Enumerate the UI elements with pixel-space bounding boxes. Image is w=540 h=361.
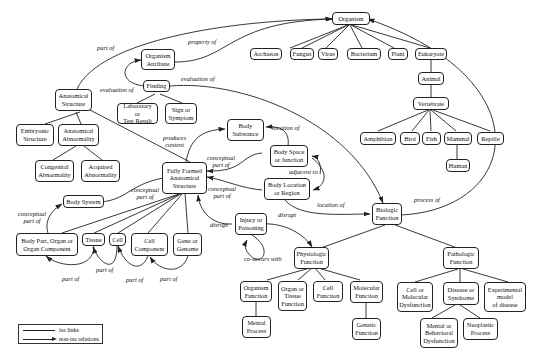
- plain-line-icon: [23, 330, 55, 331]
- node-plant[interactable]: Plant: [388, 48, 408, 60]
- arrow-line-icon: [23, 339, 55, 340]
- node-sign-symptom[interactable]: Sign or Symptom: [165, 103, 197, 124]
- edge-label-evaluation-of: evaluation of: [181, 75, 215, 82]
- node-neoplastic-process[interactable]: Neoplastic Process: [463, 318, 498, 340]
- node-mental-dysfunction[interactable]: Mental or Behavioral Dysfunction: [420, 318, 458, 348]
- edge-label-disrupt: disrupt: [210, 221, 228, 228]
- edge-label-part-of: part of: [160, 275, 177, 282]
- node-physiologic-function[interactable]: Physiologic Function: [294, 247, 329, 269]
- node-organism-function[interactable]: Organism Function: [240, 281, 272, 302]
- legend-isa-row: isa links: [23, 326, 79, 334]
- node-acquired-abnormality[interactable]: Acquired Abnormality: [81, 160, 120, 182]
- edge-label-adjacent-to: adjacent to: [289, 168, 318, 175]
- node-mental-process[interactable]: Mental Process: [242, 316, 271, 338]
- node-finding[interactable]: Finding: [143, 80, 170, 92]
- node-body-substance[interactable]: Body Substance: [227, 119, 264, 141]
- edge-label-location-of: location of: [272, 124, 300, 131]
- node-organ-tissue-function[interactable]: Organ or Tissue Function: [278, 281, 307, 311]
- node-body-space[interactable]: Body Space or Junction: [270, 145, 308, 167]
- node-anatomical-abnormality[interactable]: Anatomical Abnormality: [58, 124, 99, 146]
- node-cell-function[interactable]: Cell Function: [313, 281, 343, 302]
- node-embryonic-structure[interactable]: Embryonic Structure: [16, 124, 54, 146]
- node-fully-formed-structure[interactable]: Fully Formed Anatomical Structure: [162, 162, 207, 194]
- edge-label-part-of: part of: [62, 275, 79, 282]
- edge-label-part-of: part of: [126, 276, 143, 283]
- edge-label-produces-content: produces content: [163, 134, 186, 149]
- node-bird[interactable]: Bird: [400, 132, 420, 145]
- legend: isa links non-isa relations: [18, 324, 103, 344]
- edge-label-disrupt: disrupt: [278, 211, 296, 218]
- node-archaeon[interactable]: Archaeon: [250, 48, 282, 60]
- edge-label-co-occurs-with: co-occurs with: [244, 255, 282, 262]
- node-injury-poisoning[interactable]: Injury or Poisoning: [235, 213, 267, 235]
- legend-non-isa-row: non-isa relations: [23, 335, 99, 343]
- legend-non-isa-label: non-isa relations: [59, 336, 99, 342]
- node-cell[interactable]: Cell: [109, 233, 126, 246]
- node-lab-result[interactable]: Laboratory or Test Result: [117, 103, 158, 124]
- edge-label-conceptual-part-of: conceptual part of: [18, 210, 46, 225]
- node-body-part[interactable]: Body Part, Organ or Organ Component: [16, 233, 78, 256]
- node-virus[interactable]: Virus: [318, 48, 338, 60]
- node-genetic-function[interactable]: Genetic Function: [352, 318, 381, 340]
- edge-label-conceptual-part-of: conceptual part of: [207, 154, 235, 169]
- concept-diagram: Organism Archaeon Fungus Virus Bacterium…: [0, 0, 540, 361]
- edge-label-conceptual-part-of: conceptual part of: [131, 186, 159, 201]
- node-eukaryote[interactable]: Eukaryote: [415, 48, 447, 60]
- edge-label-evaluation-of: evaluation of: [100, 86, 134, 93]
- node-mammal[interactable]: Mammal: [444, 132, 472, 145]
- node-fungus[interactable]: Fungus: [290, 48, 314, 60]
- edge-label-location-of: location of: [317, 201, 345, 208]
- node-molecular-function[interactable]: Molecular Function: [350, 281, 383, 303]
- node-disease-syndrome[interactable]: Disease or Syndrome: [443, 282, 479, 305]
- node-congenital-abnormality[interactable]: Congenital Abnormality: [35, 160, 74, 182]
- node-bacterium[interactable]: Bacterium: [347, 48, 381, 60]
- edge-label-part-of: part of: [97, 44, 114, 51]
- node-pathologic-function[interactable]: Pathologic Function: [443, 247, 479, 269]
- node-organism-attribute[interactable]: Organism Attribute: [141, 49, 175, 70]
- node-fish[interactable]: Fish: [422, 132, 441, 145]
- node-amphibian[interactable]: Amphibian: [360, 132, 396, 145]
- legend-isa-label: isa links: [59, 327, 79, 333]
- node-gene-genome[interactable]: Gene or Genome: [173, 233, 202, 256]
- edge-label-process-of: process of: [414, 196, 440, 203]
- edge-label-property-of: property of: [188, 38, 216, 45]
- node-anatomical-structure[interactable]: Anatomical Structure: [55, 89, 92, 111]
- node-reptile[interactable]: Reptile: [477, 132, 504, 145]
- node-cell-dysfunction[interactable]: Cell or Molecular Dysfunction: [397, 282, 433, 312]
- node-vertebrate[interactable]: Vertebrate: [413, 97, 449, 110]
- node-tissue[interactable]: Tissue: [82, 233, 105, 246]
- node-human[interactable]: Human: [446, 159, 470, 172]
- node-experimental-model[interactable]: Experimental model of disease: [484, 282, 526, 312]
- node-body-system[interactable]: Body System: [63, 195, 104, 208]
- node-body-location[interactable]: Body Location or Region: [264, 178, 310, 200]
- edge-label-conceptual-part-of: conceptual part of: [208, 185, 236, 200]
- node-cell-component[interactable]: Cell Component: [131, 233, 168, 256]
- edge-label-part-of: part of: [96, 266, 113, 273]
- node-biologic-function[interactable]: Biologic Function: [372, 203, 402, 225]
- node-organism[interactable]: Organism: [332, 12, 370, 25]
- node-animal[interactable]: Animal: [418, 72, 444, 85]
